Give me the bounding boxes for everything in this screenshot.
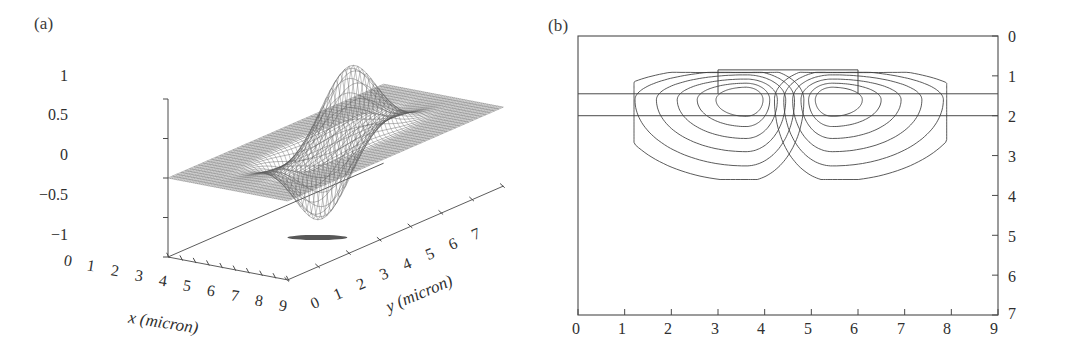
- b-y-tick-2: 2: [1008, 108, 1016, 126]
- b-y-tick-1: 1: [1008, 68, 1016, 86]
- b-y-tick-6: 6: [1008, 268, 1016, 286]
- z-tick-1: 1: [30, 67, 68, 85]
- b-x-tick-9: 9: [990, 320, 998, 338]
- z-tick-0: 0: [30, 146, 68, 164]
- panel-b-label: (b): [548, 16, 568, 36]
- panel-a-label: (a): [34, 14, 53, 34]
- b-y-tick-7: 7: [1008, 305, 1016, 323]
- z-tick-neg0.5: −0.5: [24, 186, 68, 204]
- panel-b-contour-plot: (b) 0 1 2 3 4 5 6 7 8 9 0 1 2 3 4 5 6 7: [520, 0, 1071, 352]
- figure-container: (a) Normalized Ex 1 0.5 0 −0.5 −1 0 1 2 …: [0, 0, 1071, 352]
- b-x-tick-1: 1: [618, 320, 626, 338]
- b-y-tick-0: 0: [1008, 28, 1016, 46]
- b-x-tick-4: 4: [757, 320, 765, 338]
- contour-map: [520, 0, 1071, 352]
- b-y-tick-5: 5: [1008, 228, 1016, 246]
- b-x-tick-5: 5: [804, 320, 812, 338]
- b-x-tick-8: 8: [943, 320, 951, 338]
- panel-a-surface-plot: (a) Normalized Ex 1 0.5 0 −0.5 −1 0 1 2 …: [0, 0, 520, 352]
- b-x-tick-0: 0: [572, 320, 580, 338]
- b-y-tick-3: 3: [1008, 148, 1016, 166]
- b-y-tick-4: 4: [1008, 188, 1016, 206]
- b-x-tick-7: 7: [897, 320, 905, 338]
- b-x-tick-2: 2: [664, 320, 672, 338]
- z-tick-neg1: −1: [24, 226, 68, 244]
- b-x-tick-6: 6: [850, 320, 858, 338]
- z-tick-0.5: 0.5: [30, 106, 68, 124]
- b-x-tick-3: 3: [711, 320, 719, 338]
